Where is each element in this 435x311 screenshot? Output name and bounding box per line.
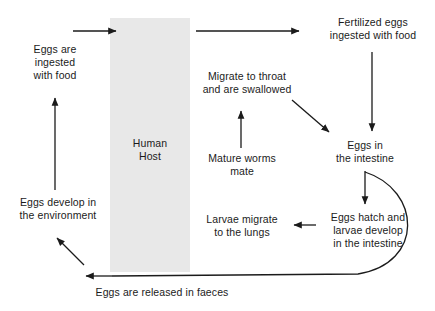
node-eggs-ingested-with-food: Eggs are ingested with food <box>12 43 98 82</box>
node-fertilized-eggs-ingested: Fertilized eggs ingested with food <box>318 16 428 42</box>
node-eggs-in-the-intestine: Eggs in the intestine <box>324 139 406 165</box>
node-eggs-hatch-larvae-develop: Eggs hatch and larvae develop in the int… <box>322 211 414 250</box>
node-mature-worms-mate: Mature worms mate <box>196 152 288 178</box>
node-eggs-released-in-faeces: Eggs are released in faeces <box>78 286 246 299</box>
node-migrate-to-throat: Migrate to throat and are swallowed <box>192 70 302 96</box>
lifecycle-diagram: Human Host Eggs are ingested with food M… <box>0 0 435 311</box>
human-host-label: Human Host <box>110 137 190 163</box>
arrow-migrate-throat-to-eggs-in-intestine <box>292 100 329 132</box>
node-eggs-develop-in-environment: Eggs develop in the environment <box>8 196 108 222</box>
arrow-faeces-to-eggs-develop <box>57 238 84 265</box>
node-larvae-migrate-to-lungs: Larvae migrate to the lungs <box>196 213 288 239</box>
